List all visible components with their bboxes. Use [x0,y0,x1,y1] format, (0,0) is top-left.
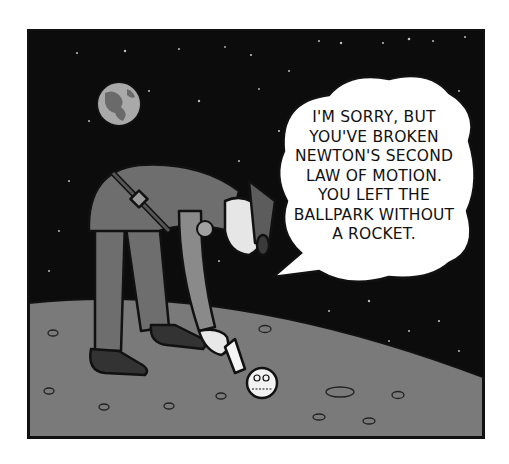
speech-line: YOU'VE BROKEN [286,128,462,148]
speech-line: YOU LEFT THE [286,186,462,206]
speech-line: NEWTON'S SECOND [286,147,462,167]
earth-icon [97,82,141,126]
speech-line: BALLPARK WITHOUT [286,206,462,226]
speech-line: LAW OF MOTION. [286,167,462,187]
speech-bubble-text: I'M SORRY, BUT YOU'VE BROKEN NEWTON'S SE… [286,108,462,245]
speech-line: I'M SORRY, BUT [286,108,462,128]
baseball-icon [247,368,277,398]
speech-line: A ROCKET. [286,225,462,245]
